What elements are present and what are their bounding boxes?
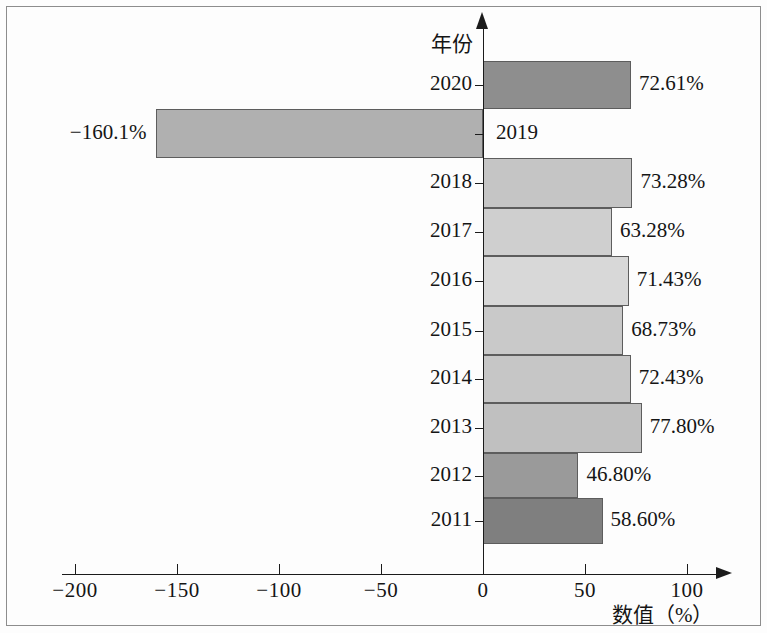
- x-axis-tick-label: −50: [364, 578, 398, 603]
- x-axis-title: 数值（%）: [612, 598, 714, 628]
- x-axis-tick-label: −150: [154, 578, 199, 603]
- x-axis-tick: [279, 564, 280, 574]
- y-axis-category-label-2016: 2016: [430, 267, 472, 292]
- x-axis-tick: [75, 564, 76, 574]
- bar-2016[interactable]: [483, 256, 629, 306]
- bar-2015[interactable]: [483, 306, 623, 355]
- x-axis-line: [62, 574, 722, 575]
- x-axis-tick-label: −100: [256, 578, 301, 603]
- bar-value-label-2015: 68.73%: [631, 317, 696, 342]
- x-axis-tick: [381, 564, 382, 574]
- plot-area: 72.61%2020−160.1%201973.28%201863.28%201…: [0, 0, 767, 633]
- bar-value-label-2014: 72.43%: [639, 365, 704, 390]
- x-axis-tick-label: 0: [478, 578, 489, 603]
- bar-value-label-2013: 77.80%: [650, 414, 715, 439]
- bar-2014[interactable]: [483, 355, 631, 403]
- bar-2020[interactable]: [483, 61, 631, 109]
- y-axis-category-label-2013: 2013: [430, 414, 472, 439]
- y-axis-arrow-icon: [476, 12, 488, 29]
- bar-value-label-2012: 46.80%: [586, 462, 651, 487]
- bar-value-label-2011: 58.60%: [611, 507, 676, 532]
- y-axis-category-label-2018: 2018: [430, 169, 472, 194]
- chart-container: 72.61%2020−160.1%201973.28%201863.28%201…: [0, 0, 767, 633]
- x-axis-tick: [585, 564, 586, 574]
- bar-value-label-2017: 63.28%: [620, 218, 685, 243]
- bar-value-label-2016: 71.43%: [637, 267, 702, 292]
- y-axis-line: [483, 28, 484, 574]
- y-axis-title: 年份: [431, 27, 473, 57]
- bar-value-label-2019: −160.1%: [70, 120, 147, 145]
- bar-2012[interactable]: [483, 453, 578, 498]
- x-axis-tick: [687, 564, 688, 574]
- y-axis-category-label-2019: 2019: [496, 120, 538, 145]
- bar-2017[interactable]: [483, 208, 612, 256]
- x-axis-arrow-icon: [716, 567, 732, 579]
- bar-2019[interactable]: [156, 109, 483, 158]
- x-axis-tick-label: −200: [52, 578, 97, 603]
- y-axis-category-label-2011: 2011: [431, 507, 472, 532]
- y-axis-category-label-2014: 2014: [430, 365, 472, 390]
- bar-value-label-2018: 73.28%: [640, 169, 705, 194]
- y-axis-category-label-2012: 2012: [430, 462, 472, 487]
- bar-value-label-2020: 72.61%: [639, 71, 704, 96]
- y-axis-category-label-2017: 2017: [430, 218, 472, 243]
- bar-2011[interactable]: [483, 498, 603, 544]
- bar-2013[interactable]: [483, 403, 642, 453]
- x-axis-tick: [177, 564, 178, 574]
- y-axis-category-label-2020: 2020: [430, 71, 472, 96]
- x-axis-tick-label: 50: [574, 578, 596, 603]
- y-axis-category-label-2015: 2015: [430, 317, 472, 342]
- bar-2018[interactable]: [483, 158, 632, 208]
